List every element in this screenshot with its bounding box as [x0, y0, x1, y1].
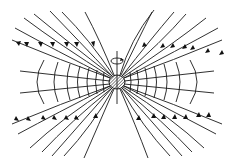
field-lines-lower-right	[120, 86, 222, 158]
central-body	[109, 75, 125, 89]
arrow-icon	[219, 50, 224, 55]
arrow-icon	[64, 42, 69, 47]
arrow-icon	[142, 42, 147, 47]
arrow-icon	[151, 113, 156, 118]
field-lines-lower-left	[12, 86, 114, 158]
field-line-diagram	[0, 0, 233, 164]
arrow-icon	[160, 43, 165, 48]
arrow-icon	[50, 42, 55, 47]
arrow-icon	[38, 42, 43, 47]
arrow-icon	[183, 114, 188, 119]
arrow-icon	[74, 42, 79, 47]
arrow-icon	[172, 114, 177, 119]
field-lines-upper-right	[120, 10, 222, 78]
arrow-icon	[196, 112, 201, 117]
arrow-icon	[41, 115, 46, 120]
arrow-icon	[136, 115, 141, 120]
arrow-icon	[91, 41, 95, 47]
arrow-icon	[205, 48, 210, 53]
rotation-arrow-icon	[111, 58, 124, 64]
arrow-icon	[74, 115, 79, 120]
arrow-icon	[206, 112, 211, 117]
arrow-icon	[14, 116, 19, 121]
closed-loops-right	[130, 60, 197, 104]
arrow-icon	[190, 45, 195, 50]
